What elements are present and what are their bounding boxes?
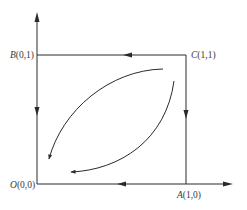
left-arrow-icon bbox=[123, 53, 132, 58]
down-arrow-icon bbox=[184, 110, 189, 119]
down-arrow-icon bbox=[35, 107, 40, 116]
y-axis bbox=[35, 12, 40, 184]
edge-c-to-a bbox=[184, 55, 189, 184]
lower-curve bbox=[71, 81, 174, 172]
label-a: A(1,0) bbox=[176, 190, 201, 201]
y-axis-arrow-icon bbox=[35, 12, 40, 22]
x-axis-arrow-icon bbox=[223, 182, 233, 187]
edge-b-to-o bbox=[35, 107, 40, 116]
left-arrow-icon bbox=[117, 182, 126, 187]
label-o: O(0,0) bbox=[10, 180, 35, 191]
label-c: C(1,1) bbox=[191, 50, 216, 61]
edge-a-to-o bbox=[117, 182, 126, 187]
x-axis bbox=[37, 182, 233, 187]
label-b: B(0,1) bbox=[10, 50, 34, 61]
edge-c-to-b bbox=[37, 53, 186, 58]
upper-curve bbox=[49, 69, 163, 159]
diagram-canvas: B(0,1) C(1,1) O(0,0) A(1,0) bbox=[0, 0, 247, 210]
